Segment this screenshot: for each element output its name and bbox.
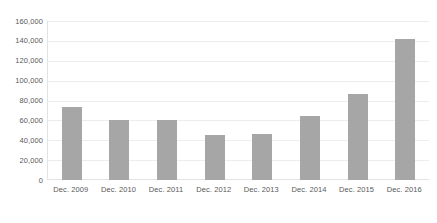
y-axis-tick-label: 160,000 bbox=[0, 18, 43, 26]
bar bbox=[348, 94, 368, 180]
x-axis-tick-label: Dec. 2014 bbox=[285, 186, 333, 194]
y-axis: 160,000 140,000 120,000 100,000 80,000 6… bbox=[0, 0, 43, 223]
y-axis-tick-label: 120,000 bbox=[0, 57, 43, 65]
y-axis-tick-label: 40,000 bbox=[0, 137, 43, 145]
x-axis-tick-label: Dec. 2009 bbox=[47, 186, 95, 194]
bar-slot bbox=[48, 21, 96, 180]
bar-slot bbox=[191, 21, 239, 180]
x-axis-tick-label: Dec. 2013 bbox=[238, 186, 286, 194]
plot-area bbox=[47, 21, 428, 180]
y-axis-tick-label: 0 bbox=[0, 177, 43, 185]
x-axis-tick-label: Dec. 2011 bbox=[142, 186, 190, 194]
bar-chart: 160,000 140,000 120,000 100,000 80,000 6… bbox=[0, 0, 437, 223]
x-axis-tick-label: Dec. 2012 bbox=[190, 186, 238, 194]
bar-slot bbox=[239, 21, 287, 180]
y-axis-tick-label: 80,000 bbox=[0, 97, 43, 105]
bar-slot bbox=[286, 21, 334, 180]
y-axis-tick-label: 100,000 bbox=[0, 77, 43, 85]
bar bbox=[395, 39, 415, 180]
bar-slot bbox=[334, 21, 382, 180]
bar-slot bbox=[143, 21, 191, 180]
x-axis: Dec. 2009 Dec. 2010 Dec. 2011 Dec. 2012 … bbox=[47, 186, 428, 194]
bar bbox=[252, 134, 272, 180]
bar-series bbox=[48, 21, 429, 180]
bar bbox=[157, 120, 177, 180]
bar-slot bbox=[381, 21, 429, 180]
bar bbox=[300, 116, 320, 180]
x-axis-tick-label: Dec. 2016 bbox=[380, 186, 428, 194]
y-axis-tick-label: 60,000 bbox=[0, 117, 43, 125]
bar bbox=[205, 135, 225, 180]
x-axis-tick-label: Dec. 2015 bbox=[333, 186, 381, 194]
bar bbox=[109, 120, 129, 180]
x-axis-tick-label: Dec. 2010 bbox=[95, 186, 143, 194]
bar bbox=[62, 107, 82, 180]
bar-slot bbox=[96, 21, 144, 180]
y-axis-tick-label: 140,000 bbox=[0, 37, 43, 45]
y-axis-tick-label: 20,000 bbox=[0, 157, 43, 165]
